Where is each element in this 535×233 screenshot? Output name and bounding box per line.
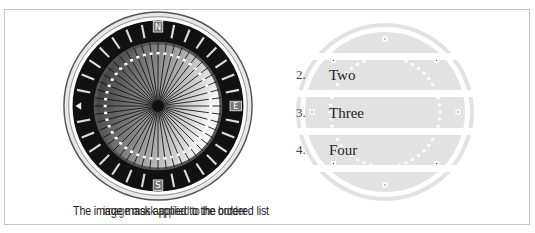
list-item-2: 2. Two — [296, 60, 496, 90]
list-item-1: 1. One — [296, 16, 496, 46]
list-item-3: 3. Three — [296, 98, 496, 128]
svg-text:E: E — [233, 101, 238, 111]
list-item-5: 5. Five — [296, 176, 496, 206]
svg-text:N: N — [155, 22, 161, 32]
right-panel: 1. One 2. Two 3. Three 4. Four 5. Five — [280, 0, 535, 233]
compass-icon: N S E — [62, 10, 254, 202]
ordered-list: 1. One 2. Two 3. Three 4. Four 5. Five — [280, 0, 535, 233]
svg-text:S: S — [155, 180, 160, 190]
left-panel: N S E The image mask applied to the orde… — [0, 0, 270, 233]
list-item-4: 4. Four — [296, 135, 496, 165]
